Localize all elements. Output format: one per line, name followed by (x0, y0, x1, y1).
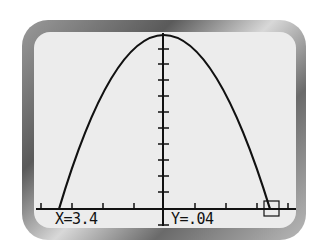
parabola-curve (59, 35, 270, 209)
y-readout: Y=.04 (171, 210, 214, 228)
graph-plot (0, 0, 320, 252)
x-readout: X=3.4 (55, 210, 98, 228)
